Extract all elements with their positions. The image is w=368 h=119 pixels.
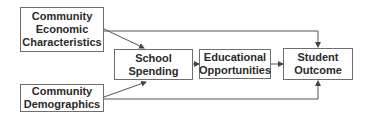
node-label-line: Spending bbox=[128, 65, 178, 78]
edge-demographics-to-outcome bbox=[104, 81, 318, 99]
node-community-economic-characteristics: Community Economic Characteristics bbox=[20, 7, 104, 52]
node-school-spending: School Spending bbox=[114, 49, 193, 80]
node-label-line: Outcome bbox=[294, 64, 342, 77]
node-label-line: School bbox=[128, 52, 178, 65]
node-student-outcome: Student Outcome bbox=[283, 48, 353, 80]
node-label-line: Community bbox=[24, 85, 100, 98]
node-community-demographics: Community Demographics bbox=[20, 84, 104, 112]
node-label-line: Student bbox=[294, 51, 342, 64]
node-label-line: Demographics bbox=[24, 98, 100, 111]
edge-demographics-to-spending bbox=[104, 82, 146, 97]
node-label-line: Community bbox=[22, 10, 102, 23]
node-label-line: Educational bbox=[199, 51, 271, 64]
node-label-line: Opportunities bbox=[199, 64, 271, 77]
node-label-line: Characteristics bbox=[22, 36, 102, 49]
edge-econ-to-spending bbox=[104, 29, 144, 48]
node-educational-opportunities: Educational Opportunities bbox=[199, 49, 271, 79]
node-label-line: Economic bbox=[22, 23, 102, 36]
